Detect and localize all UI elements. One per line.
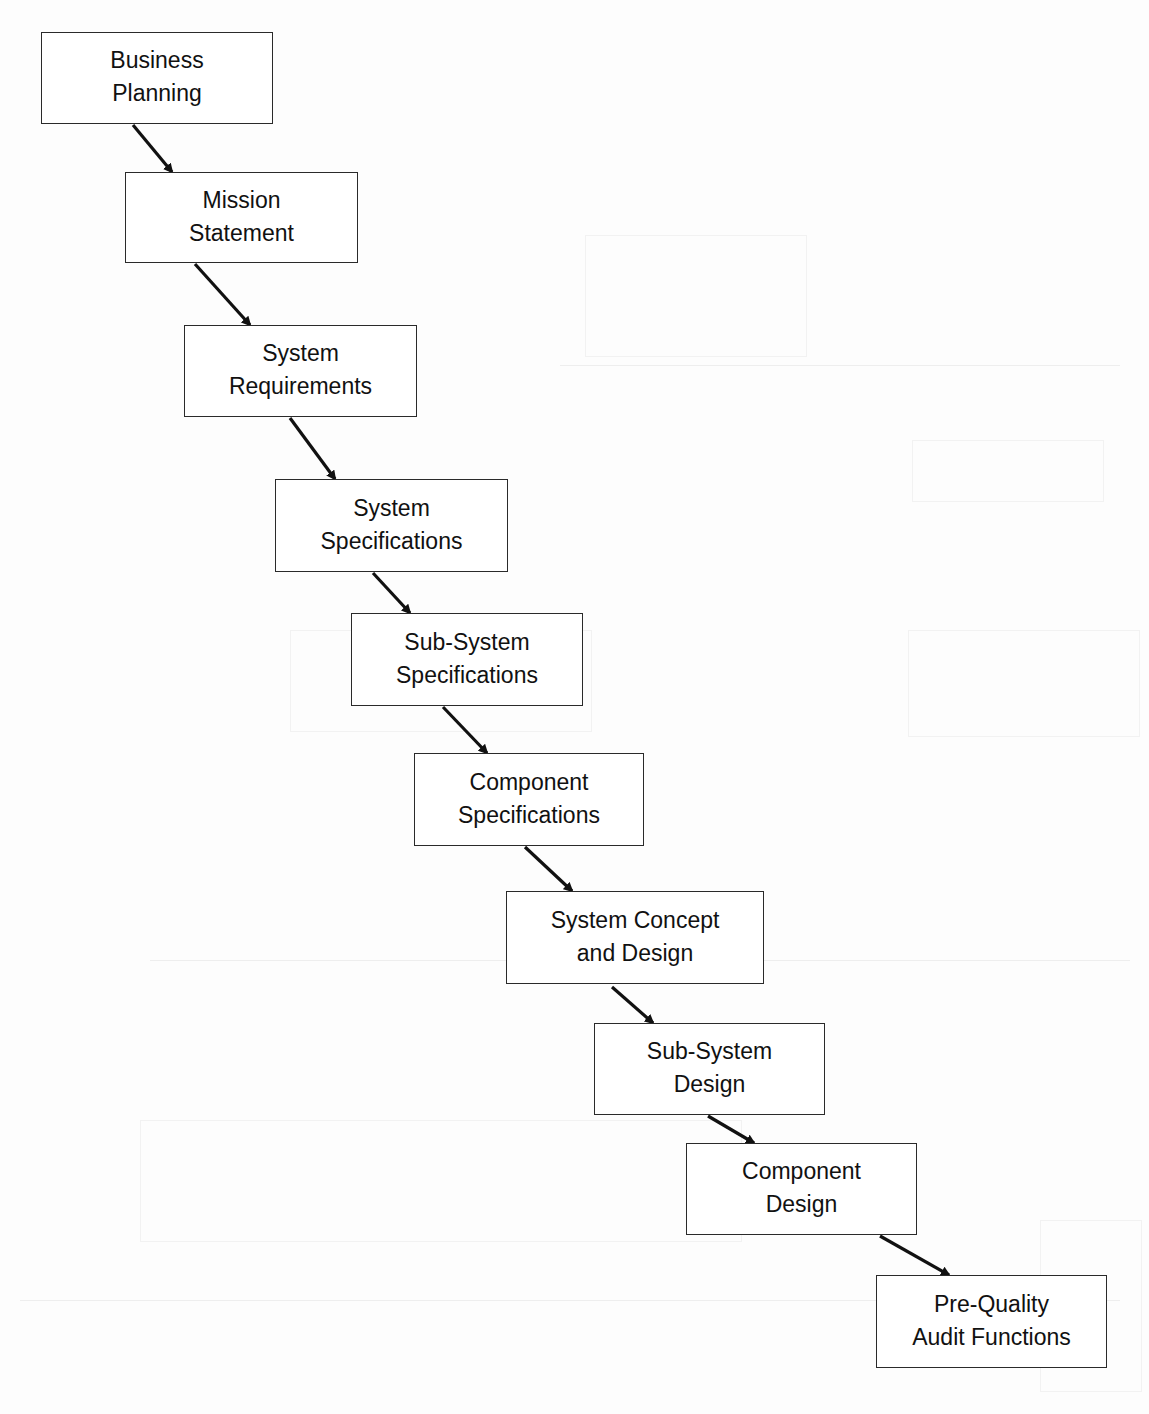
document-page: Business PlanningMission StatementSystem… [0, 0, 1149, 1414]
flow-step-label: System Concept and Design [551, 904, 720, 970]
arrow-icon [133, 125, 172, 172]
flow-step-label: System Specifications [321, 492, 463, 558]
flow-step-label: Pre-Quality Audit Functions [912, 1288, 1071, 1354]
bleed-through-box [912, 440, 1104, 502]
flow-step-label: Component Specifications [458, 766, 600, 832]
flow-step-label: Sub-System Design [647, 1035, 772, 1101]
flow-step-label: Business Planning [110, 44, 203, 110]
flow-step-mission-statement: Mission Statement [125, 172, 358, 263]
arrow-icon [880, 1236, 949, 1275]
arrow-icon [290, 418, 335, 479]
flow-step-system-requirements: System Requirements [184, 325, 417, 417]
bleed-through-box [140, 1120, 742, 1242]
bleed-through-box [585, 235, 807, 357]
flow-step-component-design: Component Design [686, 1143, 917, 1235]
arrow-icon [373, 573, 410, 613]
flow-step-component-specifications: Component Specifications [414, 753, 644, 846]
flow-step-sub-system-specifications: Sub-System Specifications [351, 613, 583, 706]
bleed-through-box [908, 630, 1140, 737]
flow-step-pre-quality-audit-functions: Pre-Quality Audit Functions [876, 1275, 1107, 1368]
flow-step-business-planning: Business Planning [41, 32, 273, 124]
arrow-icon [525, 847, 572, 891]
flow-step-system-concept-and-design: System Concept and Design [506, 891, 764, 984]
flow-step-label: Sub-System Specifications [396, 626, 538, 692]
arrow-icon [612, 987, 653, 1023]
bleed-through-line [560, 365, 1120, 366]
flow-step-label: Mission Statement [189, 184, 294, 250]
flow-step-label: System Requirements [229, 337, 372, 403]
flow-step-system-specifications: System Specifications [275, 479, 508, 572]
flow-step-sub-system-design: Sub-System Design [594, 1023, 825, 1115]
flow-step-label: Component Design [742, 1155, 861, 1221]
arrow-icon [195, 264, 250, 325]
